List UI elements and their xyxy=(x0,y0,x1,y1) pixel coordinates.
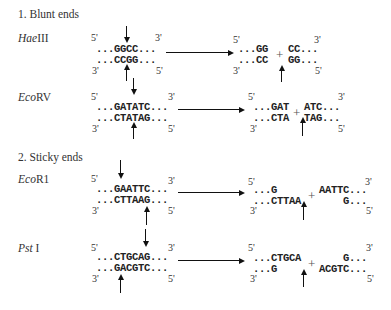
product-right-bottom: GG... xyxy=(288,55,318,66)
three-prime-label: 3' xyxy=(250,206,257,216)
enzyme-name-italic: Eco xyxy=(18,91,36,103)
arrow-head-right-icon xyxy=(239,190,245,196)
enzyme-label-psti: Pst I xyxy=(18,243,39,255)
arrow-head-up-icon xyxy=(279,65,285,71)
enzyme-label-ecorv: EcoRV xyxy=(18,92,51,104)
cut-site-arrow xyxy=(281,70,282,82)
arrow-head-down-icon xyxy=(124,37,130,43)
cut-site-arrow xyxy=(303,274,304,287)
enzyme-name-roman: R1 xyxy=(36,173,49,185)
enzyme-name-roman: I xyxy=(33,242,40,254)
arrow-head-right-icon xyxy=(239,258,245,264)
product-left-bottom: ...CTA xyxy=(253,113,289,124)
three-prime-label: 3' xyxy=(233,66,240,76)
substrate-top-strand: ...GATATC... xyxy=(96,102,168,113)
five-prime-label: 5' xyxy=(366,206,373,216)
substrate-bottom-strand: ...GACGTC... xyxy=(96,263,168,274)
arrow-head-up-icon xyxy=(131,122,137,128)
plus-sign: + xyxy=(308,257,315,270)
cut-site-arrow xyxy=(302,122,303,136)
arrow-head-down-icon xyxy=(143,241,149,247)
product-right-bottom: TAG... xyxy=(304,113,340,124)
enzyme-name-roman: III xyxy=(37,32,49,44)
five-prime-label: 5' xyxy=(168,274,175,284)
three-prime-label: 3' xyxy=(92,274,99,284)
plus-sign: + xyxy=(308,189,315,202)
reaction-arrow xyxy=(166,52,229,53)
five-prime-label: 5' xyxy=(168,124,175,134)
reaction-arrow xyxy=(178,109,240,110)
product-left-top: ...G xyxy=(253,185,277,196)
enzyme-name-italic: Eco xyxy=(18,173,36,185)
reaction-arrow xyxy=(178,260,240,261)
three-prime-label: 3' xyxy=(250,124,257,134)
section-heading-sticky-ends: 2. Sticky ends xyxy=(18,152,83,164)
five-prime-label: 5' xyxy=(156,66,163,76)
product-left-top: ...GG xyxy=(238,44,268,55)
cut-arrow-bottom xyxy=(146,211,147,225)
product-right-bottom: G... xyxy=(343,196,367,207)
cut-arrow-bottom xyxy=(133,127,134,139)
plus-sign: + xyxy=(276,48,283,61)
arrow-head-up-icon xyxy=(301,269,307,275)
arrow-head-right-icon xyxy=(239,107,245,113)
cut-arrow-bottom xyxy=(120,279,121,293)
arrow-head-up-icon xyxy=(301,201,307,207)
arrow-head-up-icon xyxy=(118,274,124,280)
five-prime-label: 5' xyxy=(91,33,98,43)
product-left-bottom: ...CC xyxy=(238,55,268,66)
enzyme-label-ecor1: EcoR1 xyxy=(18,174,49,186)
substrate-top-strand: ...GAATTC... xyxy=(96,184,168,195)
product-right-top: CC... xyxy=(288,44,318,55)
cut-arrow-bottom xyxy=(126,69,127,81)
three-prime-label: 3' xyxy=(92,206,99,216)
arrow-head-up-icon xyxy=(144,206,150,212)
enzyme-name-italic: Pst xyxy=(18,242,33,254)
five-prime-label: 5' xyxy=(315,66,322,76)
product-left-top: ...CTGCA xyxy=(253,253,301,264)
arrow-head-up-icon xyxy=(300,117,306,123)
three-prime-label: 3' xyxy=(155,33,162,43)
five-prime-label: 5' xyxy=(367,274,374,284)
product-right-bottom: ACGTC... xyxy=(319,264,367,275)
three-prime-label: 3' xyxy=(92,66,99,76)
substrate-bottom-strand: ...CTTAAG... xyxy=(96,195,168,206)
enzyme-name-roman: RV xyxy=(36,91,51,103)
enzyme-name-italic: Hae xyxy=(18,32,37,44)
product-right-top: ATC... xyxy=(304,102,340,113)
cut-site-arrow xyxy=(303,206,304,220)
three-prime-label: 3' xyxy=(168,176,175,186)
five-prime-label: 5' xyxy=(338,124,345,134)
three-prime-label: 3' xyxy=(92,124,99,134)
substrate-top-strand: ...GGCC... xyxy=(96,44,156,55)
cut-arrow-top xyxy=(120,160,121,174)
product-left-top: ...GAT xyxy=(253,102,289,113)
section-heading-blunt-ends: 1. Blunt ends xyxy=(18,9,79,21)
substrate-top-strand: ...CTGCAG... xyxy=(96,252,168,263)
arrow-head-right-icon xyxy=(228,50,234,56)
arrow-head-down-icon xyxy=(131,89,137,95)
three-prime-label: 3' xyxy=(168,92,175,102)
three-prime-label: 3' xyxy=(168,243,175,253)
arrow-head-up-icon xyxy=(124,64,130,70)
three-prime-label: 3' xyxy=(366,243,373,253)
reaction-arrow xyxy=(178,192,240,193)
five-prime-label: 5' xyxy=(168,206,175,216)
three-prime-label: 3' xyxy=(250,274,257,284)
product-right-top: AATTC... xyxy=(319,185,367,196)
enzyme-label-haeiii: HaeIII xyxy=(18,33,49,45)
product-left-bottom: ...CTTAA xyxy=(253,196,301,207)
arrow-head-down-icon xyxy=(118,173,124,179)
product-right-top: G... xyxy=(343,253,367,264)
